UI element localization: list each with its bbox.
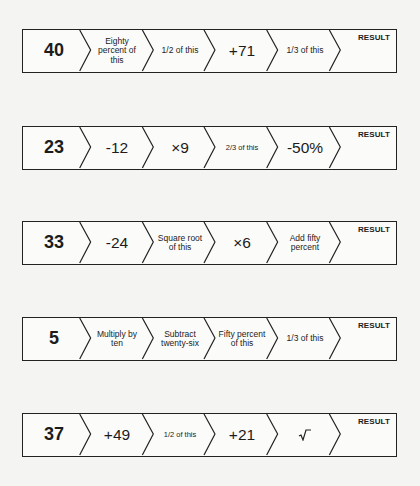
step-1: Eighty percent of this (91, 30, 143, 72)
start-number: 37 (23, 414, 85, 456)
step-1: Multiply by ten (91, 318, 143, 360)
result-label: RESULT (358, 225, 390, 234)
step-3: +71 (216, 30, 268, 72)
step-3: 2/3 of this (216, 127, 268, 169)
puzzle-chain-2: 23 -12 ×9 2/3 of this -50% RESULT (22, 126, 397, 170)
puzzle-chain-4: 5 Multiply by ten Subtract twenty-six Fi… (22, 317, 397, 361)
step-1: -24 (91, 222, 143, 264)
start-number: 23 (23, 127, 85, 169)
start-number: 33 (23, 222, 85, 264)
puzzle-chain-1: 40 Eighty percent of this 1/2 of this +7… (22, 29, 397, 73)
step-2: Square root of this (154, 222, 206, 264)
step-4: -50% (279, 127, 331, 169)
step-4 (279, 414, 331, 456)
start-number: 40 (23, 30, 85, 72)
step-2: 1/2 of this (154, 414, 206, 456)
step-4: 1/3 of this (279, 318, 331, 360)
result-label: RESULT (358, 321, 390, 330)
result-label: RESULT (358, 130, 390, 139)
step-2: 1/2 of this (154, 30, 206, 72)
step-4: 1/3 of this (279, 30, 331, 72)
result-label: RESULT (358, 33, 390, 42)
step-2: ×9 (154, 127, 206, 169)
step-3: ×6 (216, 222, 268, 264)
square-root-icon (298, 429, 312, 441)
step-4: Add fifty percent (279, 222, 331, 264)
step-1: -12 (91, 127, 143, 169)
step-2: Subtract twenty-six (154, 318, 206, 360)
start-number: 5 (23, 318, 85, 360)
step-1: +49 (91, 414, 143, 456)
step-3: +21 (216, 414, 268, 456)
step-3: Fifty percent of this (216, 318, 268, 360)
puzzle-chain-3: 33 -24 Square root of this ×6 Add fifty … (22, 221, 397, 265)
result-label: RESULT (358, 417, 390, 426)
puzzle-chain-5: 37 +49 1/2 of this +21 RESULT (22, 413, 397, 457)
